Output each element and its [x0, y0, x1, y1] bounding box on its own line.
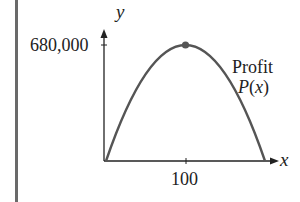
vertex-point — [182, 41, 189, 48]
x-axis-label: x — [280, 150, 288, 169]
y-axis-label: y — [116, 2, 124, 21]
profit-chart — [0, 0, 300, 202]
curve-function-label: P(x) — [238, 78, 269, 96]
y-axis-arrow-icon — [101, 29, 108, 38]
curve-fn-paren-close: ) — [263, 77, 269, 97]
x-tick-label: 100 — [171, 170, 198, 188]
curve-name-label: Profit — [232, 58, 273, 76]
curve-fn-var: x — [255, 77, 263, 97]
curve-fn-p: P — [238, 77, 249, 97]
y-tick-label: 680,000 — [30, 36, 89, 54]
x-axis-arrow-icon — [270, 158, 279, 165]
